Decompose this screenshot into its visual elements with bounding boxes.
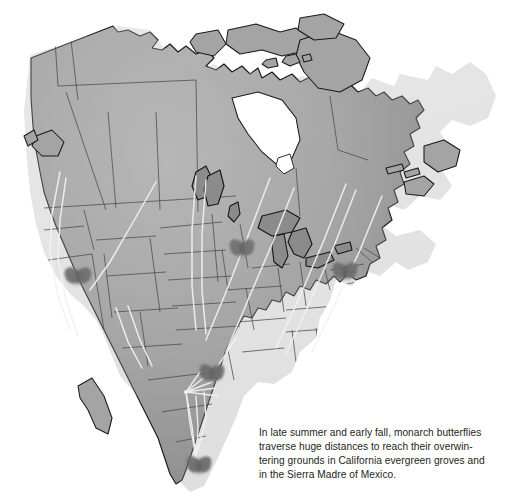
fan-convergence-node: [184, 390, 188, 394]
caption-line-2: traverse huge distances to reach their o…: [259, 440, 503, 454]
caption-line-4: in the Sierra Madre of Mexico.: [259, 468, 503, 482]
caption-line-1: In late summer and early fall, monarch b…: [259, 426, 503, 440]
figure-caption: In late summer and early fall, monarch b…: [259, 426, 503, 482]
north-america-map: [0, 0, 508, 499]
landmass-group: [0, 0, 508, 499]
caption-line-3: tering grounds in California evergreen g…: [259, 454, 503, 468]
baja-california: [78, 378, 112, 434]
border-sc-nc: [330, 312, 362, 320]
border-al-ga: [316, 328, 320, 362]
border-ga-fl: [316, 358, 346, 362]
border-nc-va: [330, 294, 368, 300]
monarch-migration-figure: In late summer and early fall, monarch b…: [0, 0, 508, 499]
arctic-small-island-c: [302, 54, 312, 62]
banks-island: [190, 30, 226, 56]
arctic-small-island-b: [262, 58, 278, 68]
